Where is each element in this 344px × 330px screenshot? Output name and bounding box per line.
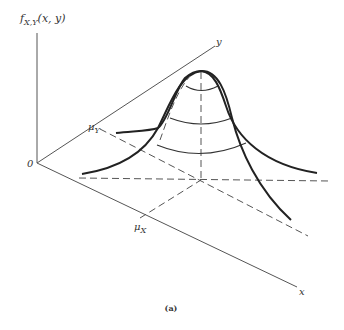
y-axis-label: y [215, 36, 222, 47]
origin-label: 0 [27, 158, 34, 169]
x-axis-label: x [299, 286, 305, 297]
dashed-mu-x-line [140, 180, 201, 218]
mu-x-label: μX [134, 221, 147, 235]
figure-caption: (a) [165, 303, 178, 313]
mu-y-label: μY [88, 121, 101, 135]
contour-ring-top [186, 86, 218, 91]
bivariate-normal-diagram: fX,Y(x, y) 0 y x μY μX (a) [0, 0, 344, 330]
profile-curve-x [82, 71, 291, 220]
dashed-mu-y-line [100, 129, 308, 236]
f-axis-label: fX,Y(x, y) [19, 12, 66, 27]
hidden-edge [160, 76, 190, 140]
y-axis [37, 46, 215, 163]
dashed-horizontal-line [79, 178, 330, 181]
